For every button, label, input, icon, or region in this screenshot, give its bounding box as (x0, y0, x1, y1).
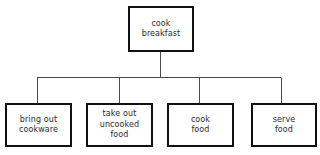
node-serve-food[interactable]: serve food (251, 103, 317, 147)
node-bring-out-cookware[interactable]: bring out cookware (5, 103, 72, 147)
node-child-label: cook food (189, 115, 212, 136)
node-child-label: bring out cookware (17, 115, 60, 136)
node-cook-food[interactable]: cook food (167, 103, 234, 147)
node-take-out-uncooked-food[interactable]: take out uncooked food (86, 103, 153, 147)
node-root[interactable]: cook breakfast (128, 6, 194, 52)
node-root-label: cook breakfast (140, 19, 183, 40)
diagram-canvas: cook breakfast bring out cookware take o… (0, 0, 320, 155)
node-child-label: take out uncooked food (98, 109, 141, 141)
node-child-label: serve food (271, 115, 298, 136)
